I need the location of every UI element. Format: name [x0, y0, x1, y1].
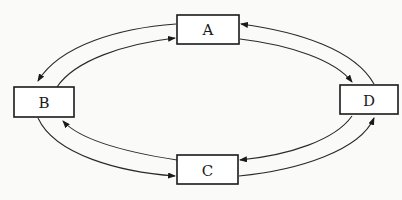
edge-c-to-d [239, 118, 374, 176]
node-a: A [177, 15, 239, 44]
diagram-canvas: A B C D [0, 0, 402, 200]
node-d-label: D [363, 92, 375, 110]
edge-b-to-c [38, 118, 175, 176]
edge-b-to-a [57, 38, 175, 87]
node-c-label: C [202, 162, 213, 180]
node-a-label: A [202, 21, 214, 39]
node-b: B [14, 87, 74, 117]
edge-a-to-b [38, 24, 176, 81]
edges [38, 24, 374, 176]
edge-a-to-d [240, 39, 352, 82]
node-b-label: B [38, 94, 49, 112]
cycle-diagram: A B C D [0, 0, 402, 200]
node-d: D [340, 85, 398, 114]
node-c: C [177, 155, 238, 184]
edge-d-to-c [240, 116, 352, 160]
